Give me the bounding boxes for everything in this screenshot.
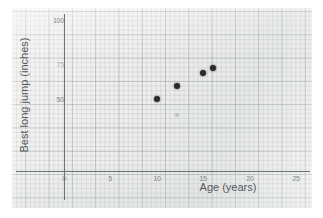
data-point [174,83,180,89]
graph-paper-background [12,8,312,208]
data-point [154,96,160,102]
y-tick-label-75: 75 [57,61,64,68]
data-point [210,65,216,71]
data-point [200,70,206,76]
y-axis-title: Best long jump (inches) [18,38,30,153]
x-axis-title: Age (years) [200,181,257,193]
y-tick-label-100: 100 [53,17,64,24]
x-tick-label-5: 5 [108,175,112,182]
x-tick-label-10: 10 [153,175,160,182]
x-tick-label-25: 25 [292,175,299,182]
x-axis-line [16,171,310,172]
x-tick-label-0: 0 [62,175,66,182]
y-tick-label-50: 50 [57,96,64,103]
scatter-plot-figure: 0 5 10 15 20 25 100 75 50 Age (years) Be… [0,0,323,218]
y-axis-line [64,14,65,200]
erased-mark [175,113,179,117]
